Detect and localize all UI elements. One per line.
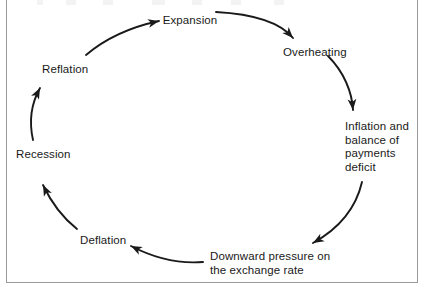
arrowhead-deflation-to-recession	[39, 183, 52, 197]
arrowhead-inflation-to-downward	[311, 234, 325, 247]
cycle-arrow-reflation-to-expansion	[86, 21, 159, 55]
cycle-node-reflation: Reflation	[42, 63, 88, 77]
arrowhead-downward-to-deflation	[129, 242, 143, 255]
cycle-node-deflation: Deflation	[80, 234, 126, 248]
cycle-arrow-downward-to-deflation	[131, 246, 203, 262]
arrowhead-reflation-to-expansion	[147, 17, 160, 28]
cycle-node-inflation: Inflation and balance of payments defici…	[345, 120, 409, 174]
cycle-node-recession: Recession	[16, 148, 71, 162]
cycle-arrow-inflation-to-downward	[313, 182, 362, 243]
cycle-arrow-expansion-to-overheating	[216, 12, 293, 38]
cycle-node-overheating: Overheating	[283, 46, 347, 60]
arrowhead-recession-to-reflation	[31, 86, 44, 100]
cycle-node-expansion: Expansion	[163, 14, 218, 28]
economic-cycle-figure: ExpansionOverheatingInflation and balanc…	[0, 0, 424, 293]
cycle-node-downward: Downward pressure on the exchange rate	[210, 250, 330, 277]
